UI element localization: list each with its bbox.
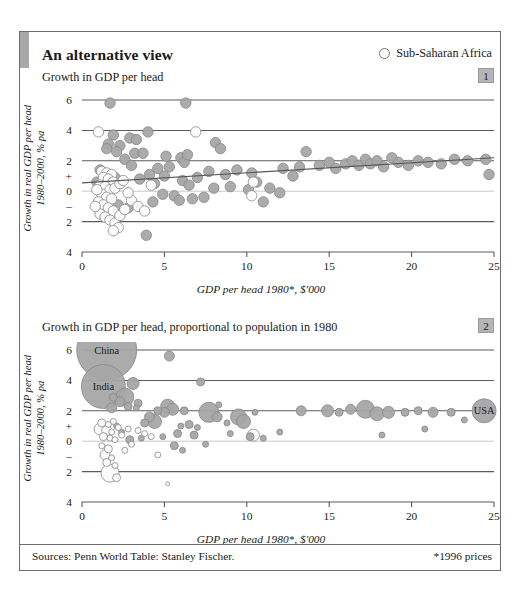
bubble xyxy=(461,417,467,423)
data-point xyxy=(278,163,288,173)
legend-label: Sub-Saharan Africa xyxy=(396,46,492,61)
bubble-africa xyxy=(109,429,115,435)
x-tick-label: 5 xyxy=(162,510,168,522)
data-point-africa xyxy=(247,191,257,201)
y-axis-minus-sign: – xyxy=(65,200,72,212)
sources-text: Sources: Penn World Table: Stanley Fisch… xyxy=(32,550,234,562)
bubble-africa xyxy=(112,437,118,443)
y-tick-label: 6 xyxy=(66,344,72,356)
bubble xyxy=(124,402,132,410)
bubble xyxy=(370,407,384,421)
bubble-africa xyxy=(125,426,131,432)
bubble xyxy=(194,425,200,431)
bubble xyxy=(260,435,266,441)
bubble xyxy=(335,408,343,416)
y-axis-plus-sign: + xyxy=(66,420,72,432)
bubble-africa xyxy=(112,463,118,469)
data-point xyxy=(108,130,118,140)
data-point xyxy=(181,98,191,108)
y-tick-label: 2 xyxy=(66,155,72,167)
data-point xyxy=(143,127,153,137)
bubble xyxy=(322,405,334,417)
x-tick-label: 0 xyxy=(79,260,85,272)
bubble-africa xyxy=(122,447,128,453)
plot-points xyxy=(77,342,496,486)
panel-2-plot: 642024+–0510152025ChinaIndiaUSA xyxy=(20,342,501,527)
x-tick-label: 15 xyxy=(324,260,336,272)
panel-1: Growth in GDP per head 1 Growth in real … xyxy=(20,70,501,308)
data-point xyxy=(403,160,413,170)
x-tick-label: 5 xyxy=(162,260,168,272)
data-point-africa xyxy=(108,226,118,236)
bubble xyxy=(422,426,428,432)
bubble xyxy=(174,430,182,438)
bubble-label-india: India xyxy=(93,381,115,392)
bubble xyxy=(178,423,184,429)
x-tick-label: 15 xyxy=(324,510,336,522)
data-point xyxy=(331,163,341,173)
trend-line xyxy=(82,158,494,183)
data-point xyxy=(413,156,423,166)
bubble xyxy=(428,407,438,417)
y-axis-plus-sign: + xyxy=(66,170,72,182)
bubble xyxy=(447,408,455,416)
data-point-africa xyxy=(248,177,258,187)
bubble xyxy=(107,403,117,413)
panel-2-subtitle: Growth in GDP per head, proportional to … xyxy=(42,320,337,335)
bubble-africa xyxy=(98,419,106,427)
y-tick-label: 2 xyxy=(66,216,72,228)
bubble-label-usa: USA xyxy=(474,405,495,416)
y-tick-label: 6 xyxy=(66,94,72,106)
x-tick-label: 10 xyxy=(241,260,253,272)
data-point xyxy=(164,162,174,172)
data-point xyxy=(294,162,304,172)
bubble xyxy=(109,393,117,401)
data-point-africa xyxy=(123,188,133,198)
data-point xyxy=(225,181,235,191)
bubble-label-china: China xyxy=(94,345,119,356)
data-point xyxy=(275,188,285,198)
bubble xyxy=(246,433,254,441)
data-point xyxy=(187,194,197,204)
y-tick-label: 4 xyxy=(66,246,72,258)
x-tick-label: 20 xyxy=(406,260,418,272)
open-circle-icon xyxy=(379,48,390,59)
data-point xyxy=(102,143,112,153)
data-point xyxy=(215,143,225,153)
bubble-africa xyxy=(128,441,134,447)
y-tick-label: 0 xyxy=(66,185,72,197)
data-point xyxy=(174,195,184,205)
x-tick-label: 0 xyxy=(79,510,85,522)
data-point xyxy=(192,172,202,182)
footnote-text: *1996 prices xyxy=(433,550,492,562)
bubble-africa xyxy=(104,445,112,453)
data-point xyxy=(131,134,141,144)
data-point xyxy=(184,180,194,190)
data-point xyxy=(138,148,148,158)
infographic-frame: An alternative view Sub-Saharan Africa G… xyxy=(19,31,501,571)
bubble xyxy=(133,405,139,411)
bubble-africa xyxy=(115,425,121,431)
bubble xyxy=(197,378,205,386)
x-tick-label: 25 xyxy=(488,260,500,272)
bubble xyxy=(227,431,233,437)
data-point xyxy=(301,146,311,156)
bubble xyxy=(170,442,178,450)
panel-1-badge: 1 xyxy=(478,68,494,83)
data-point xyxy=(378,162,388,172)
x-tick-label: 25 xyxy=(488,510,500,522)
bubble-africa xyxy=(135,428,141,434)
data-point-africa xyxy=(146,180,156,190)
data-point xyxy=(141,230,151,240)
bubble xyxy=(237,414,251,428)
y-tick-label: 4 xyxy=(66,496,72,508)
data-point-africa xyxy=(90,201,100,211)
data-point xyxy=(484,169,494,179)
data-point xyxy=(258,197,268,207)
bubble-africa xyxy=(110,418,116,424)
bubble xyxy=(277,429,283,435)
bubble-africa xyxy=(166,482,170,486)
data-point-africa xyxy=(92,184,102,194)
data-point-africa xyxy=(139,206,149,216)
bubble xyxy=(401,408,409,416)
